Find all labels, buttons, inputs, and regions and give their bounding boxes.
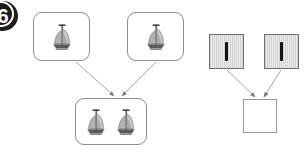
unit-square-addend-one[interactable]	[209, 34, 244, 69]
sailboat-group	[50, 22, 74, 52]
sailboat-group	[144, 22, 168, 52]
arrow-boat-right-to-sum	[122, 62, 156, 96]
arrow-unit-left-to-sum	[227, 70, 255, 97]
unit-square-addend-two[interactable]	[264, 34, 299, 69]
sailboat-card-sum[interactable]	[75, 98, 147, 145]
arrow-boat-left-to-sum	[76, 62, 114, 96]
arrow-unit-right-to-sum	[264, 70, 281, 97]
sailboat-icon	[84, 107, 108, 137]
sailboat-icon	[144, 22, 168, 52]
worksheet-canvas: 6	[0, 0, 306, 153]
vertical-bar-icon	[280, 42, 283, 60]
question-number-badge: 6	[0, 1, 18, 31]
sailboat-card-addend-one[interactable]	[33, 12, 90, 61]
sailboat-card-addend-two[interactable]	[127, 12, 184, 61]
answer-box-sum[interactable]	[243, 99, 277, 133]
vertical-bar-icon	[225, 42, 228, 60]
sailboat-icon	[50, 22, 74, 52]
sailboat-icon	[114, 107, 138, 137]
sailboat-group	[84, 107, 138, 137]
